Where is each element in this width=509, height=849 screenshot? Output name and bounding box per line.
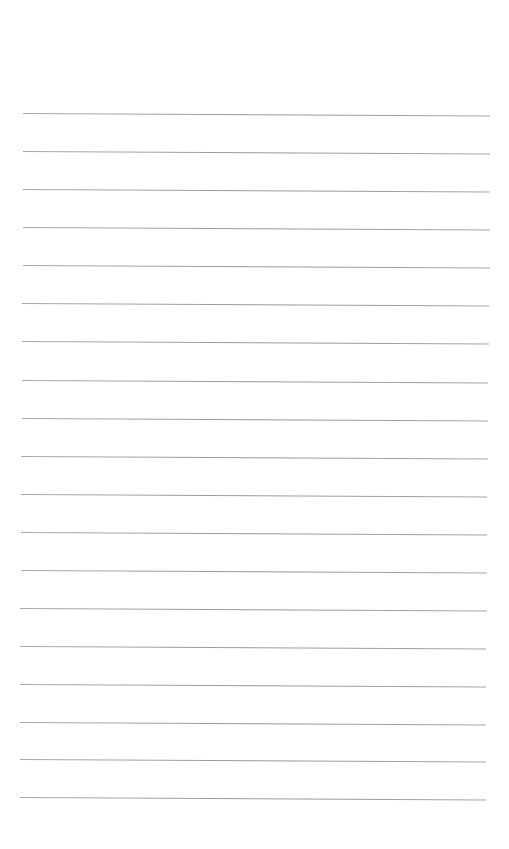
ruled-paper-page: [0, 0, 509, 849]
ruled-line: [20, 797, 486, 800]
ruled-line: [22, 380, 488, 383]
ruled-line: [23, 265, 490, 268]
ruled-line: [20, 608, 487, 611]
ruled-line: [21, 494, 487, 497]
ruled-line: [23, 227, 490, 230]
ruled-line: [20, 646, 486, 649]
ruled-line: [20, 684, 486, 687]
ruled-line: [23, 113, 490, 116]
ruled-line: [21, 532, 487, 535]
ruled-line: [22, 303, 489, 306]
ruled-line: [21, 456, 488, 459]
ruled-line: [21, 570, 487, 573]
ruled-line: [20, 759, 486, 762]
ruled-line: [23, 189, 490, 192]
ruled-line: [22, 418, 488, 421]
ruled-line: [22, 341, 489, 344]
ruled-line: [23, 151, 490, 154]
ruled-line: [20, 722, 486, 725]
